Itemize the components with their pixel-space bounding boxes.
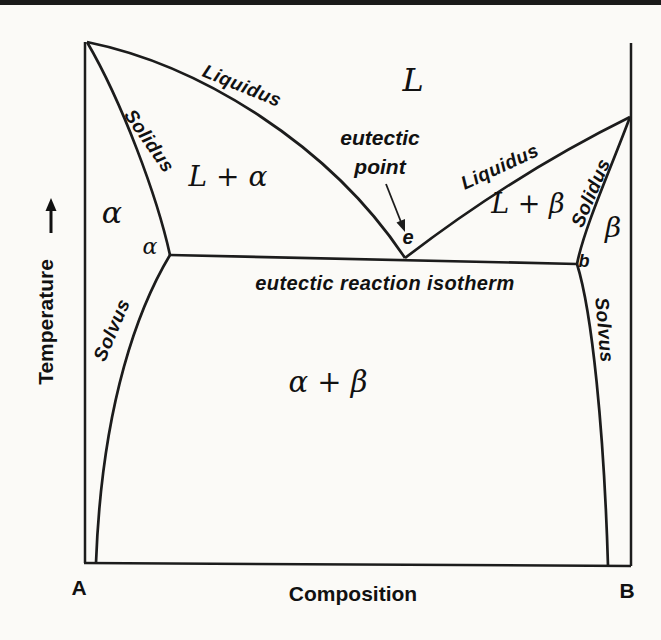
- eutectic-phase-diagram: Temperature Composition A B Liquidus Sol…: [0, 0, 661, 640]
- eutectic-point-annotation: eutectic point: [340, 123, 419, 181]
- x-axis-left-endpoint-label: A: [71, 576, 86, 600]
- x-axis-line: [84, 563, 631, 566]
- eutectic-point-e-label: e: [402, 226, 413, 249]
- region-alpha-plus-beta-label: α + β: [288, 365, 367, 399]
- isotherm-alpha-endpoint-label: α: [143, 234, 158, 259]
- isotherm-b-endpoint-label: b: [579, 251, 590, 272]
- phase-diagram-canvas: [0, 0, 661, 640]
- eutectic-point-annotation-line2: point: [340, 152, 419, 181]
- region-liquid-plus-beta-label: L + β: [491, 188, 564, 219]
- region-alpha-label: α: [102, 195, 122, 230]
- temperature-up-arrow-icon: [46, 198, 57, 233]
- region-liquid-label: L: [402, 61, 423, 99]
- eutectic-point-annotation-line1: eutectic: [340, 123, 419, 152]
- y-axis-label: Temperature: [34, 259, 58, 385]
- x-axis-label: Composition: [289, 582, 417, 606]
- solvus-left-curve: [96, 255, 170, 563]
- region-beta-label: β: [605, 211, 621, 244]
- region-liquid-plus-alpha-label: L + α: [189, 160, 268, 193]
- eutectic-isotherm-line: [170, 255, 577, 264]
- eutectic-isotherm-annotation: eutectic reaction isotherm: [255, 272, 514, 295]
- x-axis-right-endpoint-label: B: [619, 579, 634, 603]
